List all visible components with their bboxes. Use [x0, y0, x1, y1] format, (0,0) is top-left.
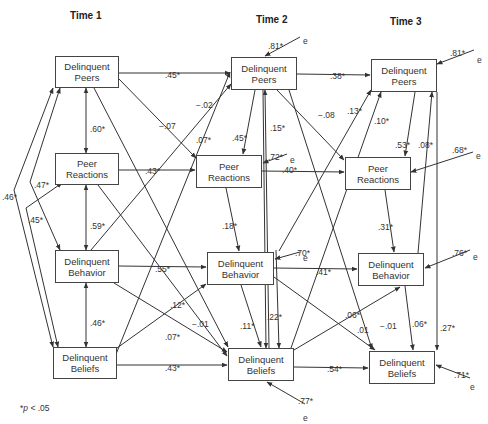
- path-arrow: [277, 90, 344, 160]
- error-term-symbol: e: [476, 151, 481, 161]
- path-coefficient: .08*: [418, 140, 434, 150]
- path-coefficient: .07*: [165, 332, 181, 342]
- node-label-line2: Beliefs: [247, 365, 276, 376]
- error-term-symbol: e: [477, 55, 482, 65]
- path-coefficient: .40*: [282, 165, 298, 175]
- path-coefficient: .13*: [347, 106, 363, 116]
- time-label-2: Time 2: [256, 14, 288, 25]
- path-arrow: [262, 171, 344, 172]
- node-label-line2: Reactions: [66, 169, 108, 180]
- node-t1-reactions: PeerReactions: [55, 153, 119, 185]
- path-coefficient: .55*: [155, 264, 171, 274]
- node-label-line2: Behavior: [372, 270, 410, 281]
- path-coefficient: −.08: [318, 110, 335, 120]
- error-variance: .68*: [452, 145, 468, 155]
- correlation-coefficient: .47*: [34, 180, 50, 190]
- node-t2-beliefs: DelinquentBeliefs: [228, 348, 294, 381]
- path-arrow: [291, 92, 381, 348]
- path-coefficient: .06*: [345, 310, 361, 320]
- node-label-line1: Delinquent: [379, 357, 424, 368]
- node-label-line2: Peers: [75, 72, 100, 83]
- path-coefficient: .01: [357, 325, 369, 335]
- error-term-symbol: e: [303, 36, 308, 46]
- error-term-symbol: e: [303, 413, 308, 423]
- path-coefficient: .45*: [165, 70, 181, 80]
- path-coefficient: .45*: [232, 133, 248, 143]
- node-t2-reactions: PeerReactions: [196, 155, 262, 188]
- error-term-symbol: e: [290, 155, 295, 165]
- footnote-threshold: < .05: [28, 403, 50, 413]
- path-arrow: [418, 92, 432, 253]
- correlation-coefficient: .59*: [90, 221, 106, 231]
- node-label-line1: Delinquent: [368, 259, 413, 270]
- path-coefficient: .10*: [374, 116, 390, 126]
- path-coefficient: .54*: [327, 364, 343, 374]
- time-label-1: Time 1: [70, 10, 102, 21]
- node-label-line2: Behavior: [68, 267, 106, 278]
- path-coefficient: .27*: [440, 323, 456, 333]
- correlation-coefficient: .45*: [28, 215, 44, 225]
- path-arrow: [243, 90, 255, 154]
- node-label-line1: Delinquent: [64, 61, 109, 72]
- node-t1-behavior: DelinquentBehavior: [55, 250, 119, 283]
- error-variance: .81*: [450, 48, 466, 58]
- path-coefficient: .53*: [395, 140, 411, 150]
- path-coefficient: .11*: [240, 321, 255, 331]
- error-variance: .76*: [452, 248, 468, 258]
- path-coefficient: −.07: [159, 121, 176, 131]
- path-arrow: [119, 79, 196, 158]
- node-label-line1: Delinquent: [381, 65, 426, 76]
- node-label-line2: Beliefs: [71, 363, 100, 374]
- node-t3-reactions: PeerReactions: [345, 157, 411, 190]
- error-term-symbol: e: [303, 253, 308, 263]
- node-label-line2: Reactions: [357, 174, 399, 185]
- path-coefficient: .15*: [270, 123, 286, 133]
- node-label-line1: Delinquent: [64, 256, 109, 267]
- node-t2-peers: DelinquentPeers: [231, 57, 297, 90]
- path-coefficient: .43*: [145, 166, 161, 176]
- path-coefficient: .22*: [267, 312, 283, 322]
- error-term-symbol: e: [470, 382, 475, 392]
- node-label-line1: Delinquent: [62, 352, 107, 363]
- correlation-coefficient: .46*: [90, 318, 106, 328]
- node-t1-beliefs: DelinquentBeliefs: [53, 347, 117, 379]
- error-variance: .77*: [298, 396, 314, 406]
- node-label-line2: Reactions: [208, 172, 250, 183]
- path-coefficient: −.02: [196, 100, 213, 110]
- correlation-coefficient: .60*: [90, 124, 106, 134]
- node-label-line2: Behavior: [222, 269, 260, 280]
- path-coefficient: −.01: [380, 321, 397, 331]
- error-term-symbol: e: [473, 252, 478, 262]
- node-t2-behavior: DelinquentBehavior: [207, 252, 274, 285]
- significance-footnote: *p < .05: [20, 403, 50, 413]
- node-t1-peers: DelinquentPeers: [55, 56, 119, 88]
- node-label-line1: Peer: [368, 163, 388, 174]
- time-label-3: Time 3: [390, 16, 422, 27]
- node-t3-behavior: DelinquentBehavior: [358, 253, 424, 286]
- path-arrow: [226, 188, 239, 251]
- path-coefficient: .06*: [412, 319, 428, 329]
- node-label-line2: Beliefs: [388, 368, 417, 379]
- node-label-line2: Peers: [252, 74, 277, 85]
- node-label-line1: Delinquent: [218, 258, 263, 269]
- path-coefficient: .43*: [165, 363, 181, 373]
- path-arrow: [405, 286, 413, 350]
- path-coefficient: .38*: [330, 71, 346, 81]
- path-arrow: [117, 284, 206, 348]
- path-coefficient: .18*: [222, 221, 238, 231]
- node-label-line1: Peer: [77, 158, 97, 169]
- path-arrow: [241, 285, 261, 347]
- node-label-line1: Delinquent: [241, 63, 286, 74]
- path-coefficient: .31*: [378, 222, 394, 232]
- path-coefficient: −.01: [192, 319, 209, 329]
- error-variance: .71*: [454, 370, 470, 380]
- correlation-coefficient: .46*: [2, 192, 18, 202]
- path-coefficient: .41*: [316, 267, 332, 277]
- path-coefficient: .07*: [196, 135, 212, 145]
- error-variance: .72*: [268, 152, 284, 162]
- path-coefficient: .12*: [170, 300, 186, 310]
- node-t3-beliefs: DelinquentBeliefs: [369, 351, 435, 384]
- path-arrow: [276, 250, 279, 348]
- error-arrow: [411, 152, 473, 172]
- node-label-line1: Peer: [219, 161, 239, 172]
